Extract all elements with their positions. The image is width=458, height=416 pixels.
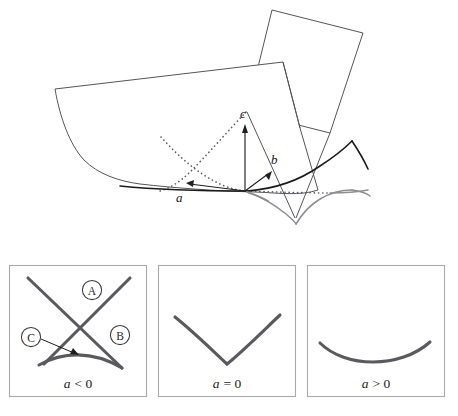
panel1-caption-relation: < 0 — [75, 376, 93, 391]
panel2-caption-symbol: a — [213, 376, 220, 391]
panel1-caption-symbol: a — [64, 376, 71, 391]
swallowtail-gray-4 — [247, 192, 268, 201]
swallowtail-gray-2 — [296, 190, 352, 224]
diagram-3d-surface: c a b — [55, 10, 370, 224]
swallowtail-dark-right — [352, 141, 368, 169]
panel-a-zero: a= 0 — [159, 266, 296, 397]
region-label-A: A — [82, 280, 101, 299]
axis-label-b: b — [271, 152, 278, 167]
axis-label-c: c — [240, 106, 246, 121]
axis-label-a: a — [176, 190, 183, 205]
swallowtail-gray-1 — [247, 192, 296, 224]
panel-a-negative-caption: a< 0 — [64, 376, 93, 391]
swallowtail-figure: c a b A B C — [0, 0, 458, 416]
region-label-B: B — [110, 325, 129, 344]
region-label-A-text: A — [88, 285, 97, 297]
panel3-caption-relation: > 0 — [373, 376, 391, 391]
panel-a-positive: a> 0 — [308, 266, 445, 397]
region-label-B-text: B — [116, 330, 124, 342]
panel3-caption-symbol: a — [362, 376, 369, 391]
lower-sheet-face — [55, 62, 318, 194]
panel-a-positive-caption: a> 0 — [362, 376, 391, 391]
figure-root: c a b A B C — [0, 0, 458, 416]
panel-a-zero-caption: a= 0 — [213, 376, 242, 391]
region-label-C-text: C — [27, 332, 35, 344]
panel2-caption-relation: = 0 — [224, 376, 242, 391]
panel-a-negative: A B C a< 0 — [10, 266, 147, 397]
